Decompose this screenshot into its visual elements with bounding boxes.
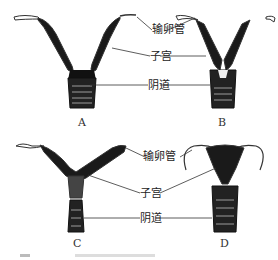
label-uterus-bottom: 子宫: [140, 188, 162, 199]
panel-c-drawing: [16, 144, 126, 232]
panel-label-c: C: [73, 238, 81, 249]
panel-b-drawing: [176, 15, 275, 108]
label-vagina-top: 阴道: [148, 80, 170, 91]
label-oviduct-top: 输卵管: [152, 24, 185, 35]
panel-label-b: B: [218, 117, 226, 128]
panel-label-d: D: [220, 238, 229, 249]
caption-cutoff: [20, 253, 160, 257]
label-uterus-top: 子宫: [150, 51, 172, 62]
panel-d-drawing: [184, 145, 263, 232]
panel-a-drawing: [14, 15, 136, 108]
panel-label-a: A: [78, 117, 86, 128]
label-oviduct-bottom: 输卵管: [143, 151, 176, 162]
uterus-types-diagram: [0, 0, 278, 260]
label-vagina-bottom: 阴道: [140, 213, 162, 224]
